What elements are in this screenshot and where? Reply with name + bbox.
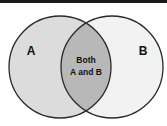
- intersection-label-line2: A and B: [70, 67, 102, 77]
- set-b-label: B: [139, 44, 148, 58]
- venn-diagram: A B Both A and B: [0, 0, 167, 126]
- intersection-label-line1: Both: [76, 55, 95, 65]
- set-a-label: A: [27, 44, 36, 58]
